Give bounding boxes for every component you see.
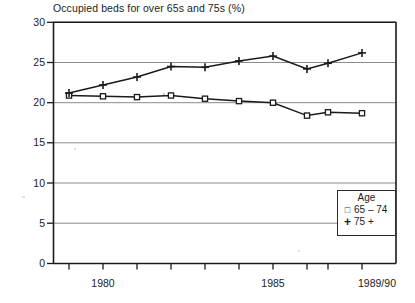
square-marker-icon (134, 95, 139, 100)
square-marker-icon (304, 113, 309, 118)
scan-speck-3 (22, 196, 25, 198)
legend-label-75-plus: 75 + (354, 216, 374, 227)
legend-entry-65-74: □ 65 – 74 (342, 204, 395, 215)
square-marker-icon (100, 94, 105, 99)
legend: Age □ 65 – 74 + 75 + (337, 190, 396, 236)
plot-canvas (0, 0, 415, 303)
data-series-layer (65, 49, 366, 118)
square-marker-icon (270, 100, 275, 105)
plus-marker-icon: + (342, 217, 353, 227)
scan-speck-2 (74, 148, 76, 150)
legend-title: Age (338, 192, 395, 203)
series-line (69, 53, 362, 93)
square-marker-icon (202, 96, 207, 101)
square-marker-icon (168, 93, 173, 98)
x-axis-ticks (69, 264, 362, 270)
legend-label-65-74: 65 – 74 (354, 204, 387, 215)
square-marker-icon: □ (342, 205, 353, 215)
chart-figure: Occupied beds for over 65s and 75s (%) 3… (0, 0, 415, 303)
scan-speck-1 (163, 93, 165, 95)
square-marker-icon (325, 110, 330, 115)
square-marker-icon (236, 99, 241, 104)
legend-entry-75-plus: + 75 + (342, 216, 395, 227)
series-75-plus (65, 49, 366, 97)
square-marker-icon (359, 111, 364, 116)
series-65-74 (66, 93, 364, 118)
series-line (69, 96, 362, 116)
scan-speck-4 (298, 250, 300, 252)
y-axis-ticks (47, 22, 53, 263)
